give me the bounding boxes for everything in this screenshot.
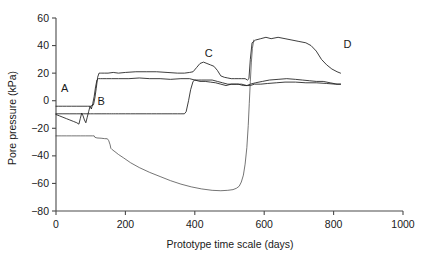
- y-tick-label: −40: [31, 149, 49, 161]
- x-axis-ticks: 02004006008001000: [53, 211, 415, 230]
- annotation-d: D: [344, 38, 352, 50]
- y-tick-label: −60: [31, 177, 49, 189]
- y-tick-label: 0: [43, 94, 49, 106]
- annotation-b: B: [97, 95, 104, 107]
- annotation-a: A: [61, 82, 69, 94]
- x-tick-label: 400: [186, 218, 204, 230]
- y-axis-title: Pore pressure (kPa): [6, 71, 18, 165]
- series-suction-base: [56, 40, 254, 191]
- y-tick-label: 40: [37, 39, 49, 51]
- y-axis-ticks: −80−60−40−200204060: [31, 12, 56, 217]
- pore-pressure-chart: −80−60−40−200204060 02004006008001000 AB…: [0, 0, 424, 268]
- x-axis-title: Prototype time scale (days): [166, 238, 293, 250]
- y-tick-label: −80: [31, 205, 49, 217]
- chart-page: −80−60−40−200204060 02004006008001000 AB…: [0, 0, 424, 268]
- y-tick-label: 20: [37, 67, 49, 79]
- y-tick-label: −20: [31, 122, 49, 134]
- x-tick-label: 200: [117, 218, 135, 230]
- x-tick-label: 0: [53, 218, 59, 230]
- annotation-labels: ABCD: [61, 38, 352, 107]
- x-tick-label: 800: [325, 218, 343, 230]
- annotation-c: C: [205, 47, 213, 59]
- x-tick-label: 600: [255, 218, 273, 230]
- series-group: [56, 37, 341, 190]
- x-tick-label: 1000: [391, 218, 415, 230]
- y-tick-label: 60: [37, 12, 49, 24]
